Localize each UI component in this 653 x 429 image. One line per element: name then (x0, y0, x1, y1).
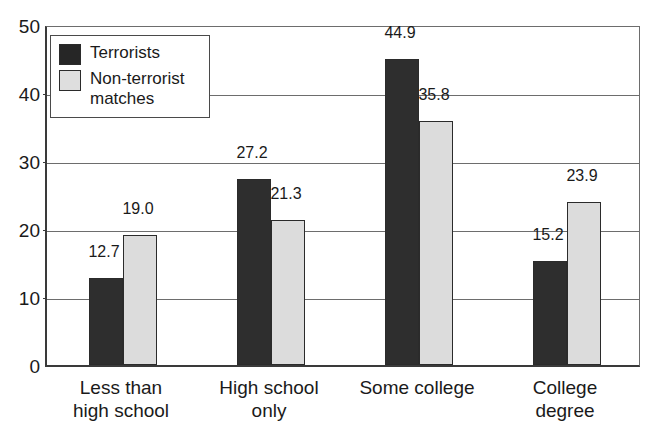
bar-terrorists-college-degree (533, 261, 567, 365)
gridline-30 (47, 163, 639, 164)
bar-nonterrorist-high-school-only (271, 220, 305, 365)
bar-chart: 50 40 30 20 10 0 12.7 19.0 27.2 21.3 44.… (0, 0, 653, 429)
y-tick-label-10: 10 (4, 289, 40, 308)
x-category-label-less-than-high-school: Less than high school (73, 376, 169, 422)
legend-item-terrorists: Terrorists (59, 43, 201, 65)
value-label-nonterrorist-some-college: 35.8 (418, 87, 449, 103)
y-tick-label-50: 50 (4, 17, 40, 36)
y-tick-label-30: 30 (4, 153, 40, 172)
value-label-terrorists-college-degree: 15.2 (532, 227, 563, 243)
value-label-terrorists-some-college: 44.9 (384, 25, 415, 41)
legend-label-nonterrorist-matches: Non-terrorist matches (90, 69, 184, 109)
value-label-nonterrorist-college-degree: 23.9 (566, 168, 597, 184)
value-label-terrorists-less-than-high-school: 12.7 (88, 244, 119, 260)
value-label-nonterrorist-high-school-only: 21.3 (270, 186, 301, 202)
y-tick-label-40: 40 (4, 85, 40, 104)
bar-nonterrorist-some-college (419, 121, 453, 365)
y-axis: 50 40 30 20 10 0 (0, 0, 40, 429)
legend-item-nonterrorist-matches: Non-terrorist matches (59, 69, 201, 109)
legend-label-terrorists: Terrorists (90, 43, 160, 63)
legend-swatch-icon-terrorists (59, 44, 81, 65)
y-tick-label-20: 20 (4, 221, 40, 240)
legend-swatch-icon-nonterrorist-matches (59, 70, 81, 91)
bar-nonterrorist-less-than-high-school (123, 235, 157, 365)
bar-terrorists-less-than-high-school (89, 278, 123, 365)
value-label-terrorists-high-school-only: 27.2 (236, 145, 267, 161)
legend: Terrorists Non-terrorist matches (50, 35, 210, 118)
x-category-label-some-college: Some college (359, 376, 474, 399)
bar-nonterrorist-college-degree (567, 202, 601, 365)
x-category-label-high-school-only: High school only (219, 376, 318, 422)
bar-terrorists-high-school-only (237, 179, 271, 365)
y-tick-label-0: 0 (4, 357, 40, 376)
value-label-nonterrorist-less-than-high-school: 19.0 (122, 201, 153, 217)
x-category-label-college-degree: College degree (521, 376, 609, 422)
bar-terrorists-some-college (385, 59, 419, 365)
